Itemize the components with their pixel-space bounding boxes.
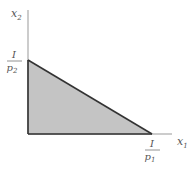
x-intercept-label: I p1 — [145, 138, 160, 164]
svg-text:p1: p1 — [145, 151, 156, 164]
svg-text:p2: p2 — [7, 62, 18, 75]
y-intercept-label: I p2 — [7, 49, 22, 75]
y-axis-label: x2 — [11, 7, 22, 22]
budget-set-diagram: x2 x1 I p2 I p1 — [0, 0, 196, 169]
svg-text:I: I — [149, 138, 155, 149]
x-axis-label: x1 — [177, 135, 188, 150]
svg-text:I: I — [11, 49, 17, 60]
